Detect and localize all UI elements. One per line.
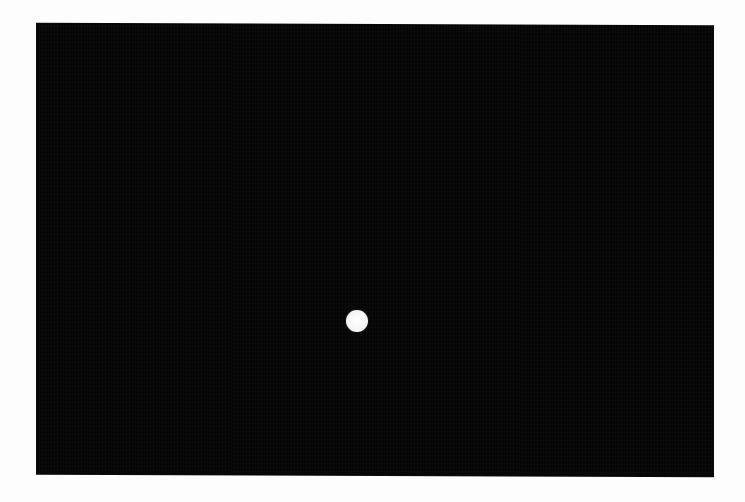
white-dot-stimulus: [346, 310, 368, 332]
page-canvas: [0, 0, 745, 502]
black-display-screen: [36, 23, 714, 477]
